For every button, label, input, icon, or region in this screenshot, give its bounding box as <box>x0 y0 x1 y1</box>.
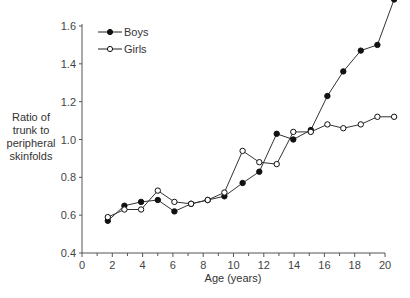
y-tick-label: 0.6 <box>61 209 76 221</box>
plot-area <box>105 0 397 223</box>
x-tick-label: 2 <box>109 259 115 271</box>
y-tick-label: 1.2 <box>61 96 76 108</box>
legend: Boys Girls <box>98 26 149 55</box>
filled-circle-icon <box>257 169 262 174</box>
open-circle-icon <box>358 122 363 127</box>
y-tick-label: 1.6 <box>61 20 76 32</box>
filled-circle-icon <box>107 29 112 34</box>
y-tick-label: 1.0 <box>61 134 76 146</box>
y-tick-label: 1.4 <box>61 58 76 70</box>
x-tick-label: 10 <box>227 259 239 271</box>
filled-circle-icon <box>391 0 396 2</box>
open-circle-icon <box>257 160 262 165</box>
filled-circle-icon <box>375 42 380 47</box>
line-chart: 0.40.60.81.01.21.41.602468101214161820 B… <box>0 0 410 298</box>
open-circle-icon <box>308 129 313 134</box>
y-tick-label: 0.8 <box>61 171 76 183</box>
x-tick-label: 6 <box>170 259 176 271</box>
y-tick-label: 0.4 <box>61 247 76 259</box>
open-circle-icon <box>375 114 380 119</box>
open-circle-icon <box>138 207 143 212</box>
series-line-boys <box>108 0 394 221</box>
filled-circle-icon <box>172 209 177 214</box>
open-circle-icon <box>325 122 330 127</box>
open-circle-icon <box>222 190 227 195</box>
open-circle-icon <box>188 201 193 206</box>
filled-circle-icon <box>358 48 363 53</box>
open-circle-icon <box>391 114 396 119</box>
x-tick-label: 20 <box>379 259 391 271</box>
open-circle-icon <box>274 161 279 166</box>
filled-circle-icon <box>291 137 296 142</box>
x-tick-label: 16 <box>318 259 330 271</box>
filled-circle-icon <box>325 93 330 98</box>
open-circle-icon <box>291 129 296 134</box>
filled-circle-icon <box>274 131 279 136</box>
open-circle-icon <box>341 126 346 131</box>
open-circle-icon <box>107 46 112 51</box>
x-tick-label: 18 <box>349 259 361 271</box>
filled-circle-icon <box>155 197 160 202</box>
open-circle-icon <box>155 188 160 193</box>
x-tick-label: 12 <box>258 259 270 271</box>
x-tick-label: 4 <box>140 259 146 271</box>
series-line-girls <box>108 117 394 217</box>
open-circle-icon <box>105 214 110 219</box>
filled-circle-icon <box>341 69 346 74</box>
open-circle-icon <box>122 207 127 212</box>
open-circle-icon <box>172 199 177 204</box>
legend-girls-label: Girls <box>124 43 147 55</box>
x-tick-label: 8 <box>200 259 206 271</box>
open-circle-icon <box>240 148 245 153</box>
x-axis-title: Age (years) <box>205 272 262 284</box>
x-tick-label: 14 <box>288 259 300 271</box>
legend-boys-label: Boys <box>124 26 149 38</box>
open-circle-icon <box>205 197 210 202</box>
filled-circle-icon <box>138 199 143 204</box>
axes: 0.40.60.81.01.21.41.602468101214161820 <box>61 20 391 271</box>
filled-circle-icon <box>240 180 245 185</box>
x-tick-label: 0 <box>79 259 85 271</box>
